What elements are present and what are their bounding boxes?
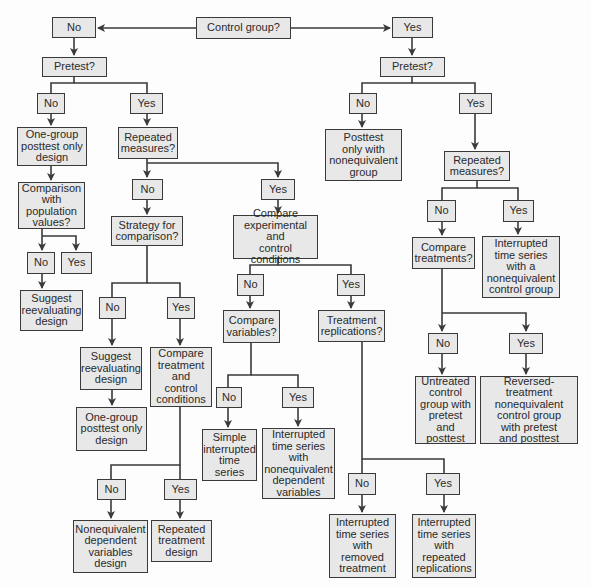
compare-exp-control-yes: Yes <box>337 274 365 296</box>
its-repeated-replications: Interrupted time series with repeated re… <box>412 514 476 578</box>
compare-treatment-control-decision: Compare treatment and control conditions <box>150 347 212 407</box>
compare-treatments-yes: Yes <box>509 333 543 354</box>
compare-experimental-control-decision: Compare experimental and control conditi… <box>233 215 318 259</box>
comparison-population-yes: Yes <box>61 252 92 274</box>
comparison-population-decision: Comparison with population values? <box>18 182 85 229</box>
repeated-measures-left-no: No <box>132 179 163 200</box>
treatment-replications-no: No <box>348 473 376 495</box>
treatment-replications-yes: Yes <box>426 473 460 495</box>
treatment-replications-decision: Treatment replications? <box>318 310 385 342</box>
repeated-measures-right-decision: Repeated measures? <box>444 151 510 181</box>
pretest-left-decision: Pretest? <box>42 57 107 77</box>
compare-variables-decision: Compare variables? <box>223 310 280 343</box>
posttest-only-nonequivalent: Posttest only with nonequivalent group <box>325 129 402 181</box>
compare-treatments-no: No <box>428 333 458 354</box>
compare-treatment-control-no: No <box>97 479 126 500</box>
pretest-left-no: No <box>37 93 65 114</box>
comparison-population-no: No <box>27 252 55 274</box>
repeated-measures-right-yes: Yes <box>503 200 534 222</box>
its-nonequivalent-control-group: Interrupted time series with a nonequiva… <box>482 236 560 298</box>
repeated-treatment-design: Repeated treatment design <box>151 520 212 562</box>
strategy-comparison-decision: Strategy for comparison? <box>111 216 183 246</box>
suggest-reevaluating-mid: Suggest reevaluating design <box>80 347 142 390</box>
control-group-no: No <box>52 17 96 38</box>
repeated-measures-left-decision: Repeated measures? <box>118 127 178 159</box>
compare-variables-no: No <box>216 387 242 408</box>
compare-treatment-control-yes: Yes <box>164 479 197 500</box>
compare-variables-yes: Yes <box>282 387 314 408</box>
untreated-control-group: Untreated control group with pretest and… <box>415 376 476 444</box>
pretest-right-yes: Yes <box>459 93 492 114</box>
its-nonequivalent-dependent-variables: Interrupted time series with nonequivale… <box>262 428 335 499</box>
its-removed-treatment: Interrupted time series with removed tre… <box>329 514 396 578</box>
pretest-right-decision: Pretest? <box>380 57 445 77</box>
one-group-posttest-top: One-group posttest only design <box>17 127 87 166</box>
control-group-yes: Yes <box>392 17 433 38</box>
suggest-reevaluating-left: Suggest reevaluating design <box>20 290 83 331</box>
compare-treatments-decision: Compare treatments? <box>412 237 475 269</box>
flowchart-canvas: Control group? No Yes Pretest? Pretest? … <box>0 0 591 587</box>
simple-interrupted-time-series: Simple interrupted time series <box>202 429 257 481</box>
strategy-no: No <box>99 297 126 319</box>
nonequivalent-dependent-variables-design: Nonequivalent dependent variables design <box>73 520 148 573</box>
control-group-decision: Control group? <box>196 17 291 39</box>
pretest-left-yes: Yes <box>130 93 163 114</box>
reversed-treatment-design: Reversed-treatment nonequivalent control… <box>480 376 578 444</box>
one-group-posttest-mid: One-group posttest only design <box>76 407 147 451</box>
repeated-measures-left-yes: Yes <box>261 179 295 200</box>
pretest-right-no: No <box>349 93 377 114</box>
strategy-yes: Yes <box>167 297 195 319</box>
compare-exp-control-no: No <box>237 274 264 296</box>
repeated-measures-right-no: No <box>427 200 456 222</box>
